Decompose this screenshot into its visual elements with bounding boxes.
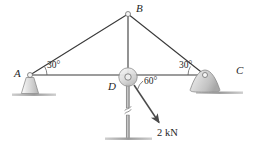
joint-pin-C [203, 73, 208, 78]
angle-label-a: 30° [47, 61, 60, 71]
angle-label-d: 60° [144, 77, 157, 87]
label-joint-A: A [14, 68, 21, 79]
label-joint-D: D [108, 81, 116, 92]
ground-base-D [105, 138, 152, 140]
joint-pin-B [126, 12, 131, 17]
member-AB [30, 14, 128, 75]
force-label: 2 kN [157, 128, 178, 139]
statics-truss-diagram: A B C D 30° 30° 60° 2 kN [0, 0, 257, 152]
angle-arc-D [138, 81, 144, 90]
angle-arcs [45, 67, 191, 90]
diagram-canvas [0, 0, 257, 152]
label-joint-B: B [136, 3, 143, 14]
pin-support-A [21, 78, 38, 94]
joint-node-D [119, 68, 137, 86]
member-BC [128, 14, 205, 75]
force-arrow-2kn [134, 85, 159, 123]
angle-label-c: 30° [179, 61, 192, 71]
joint-pin-A [28, 73, 33, 78]
label-joint-C: C [236, 65, 243, 76]
